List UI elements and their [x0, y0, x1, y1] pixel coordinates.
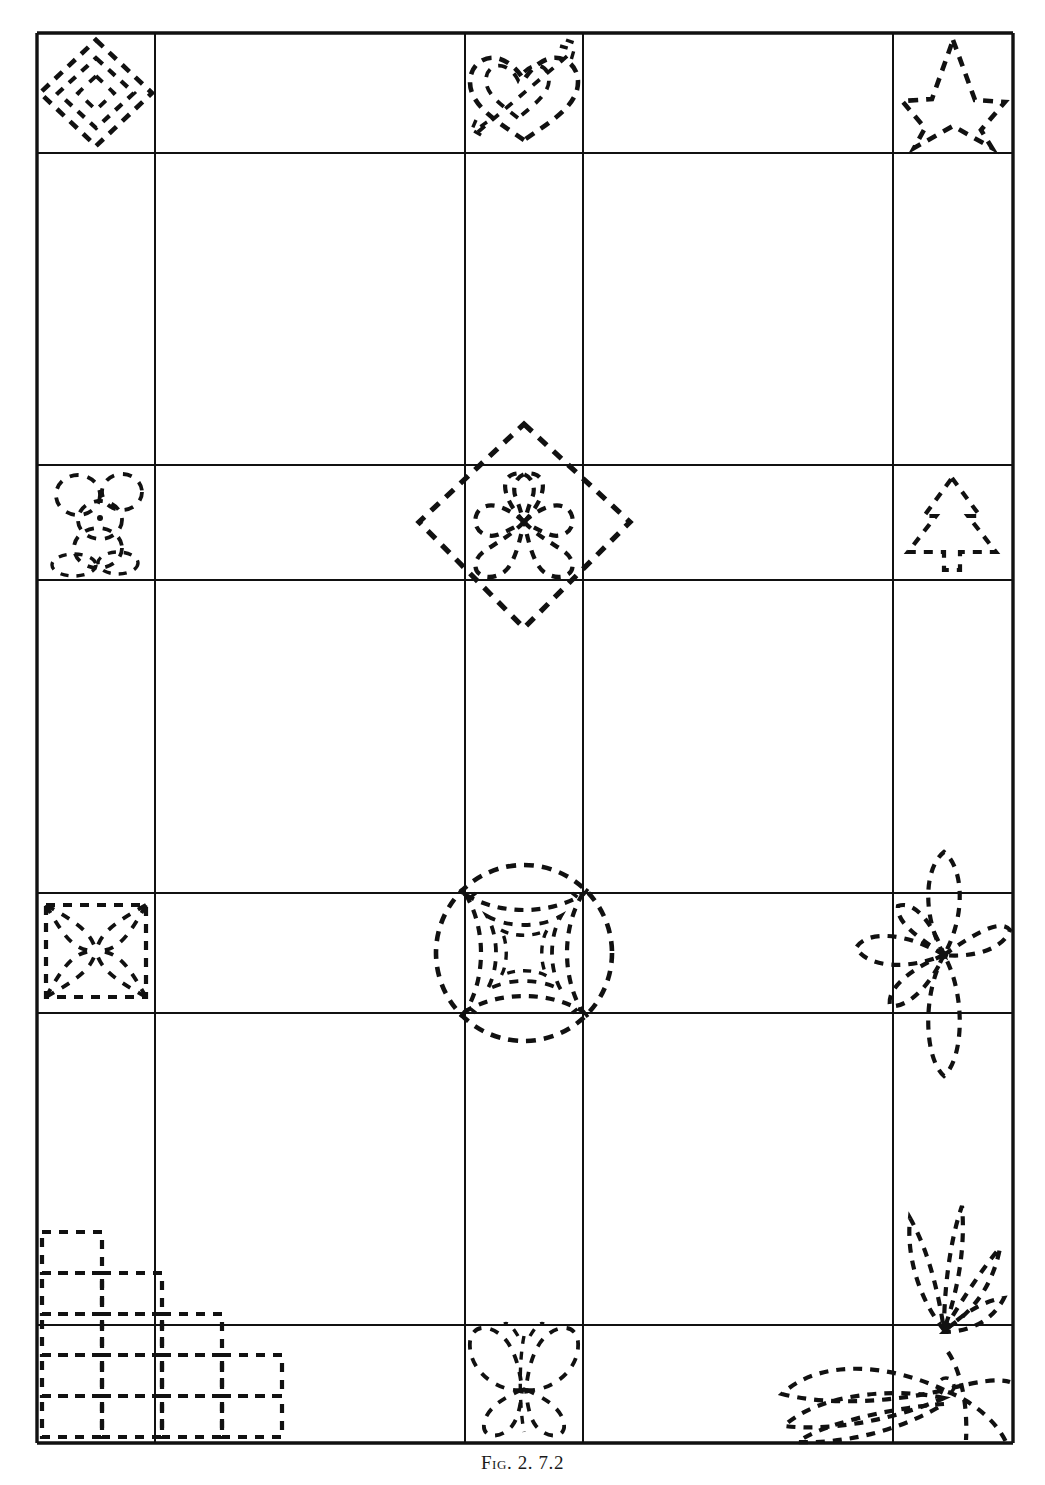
cell-r1c3[interactable] — [465, 33, 583, 153]
cell-r3c3[interactable] — [465, 465, 583, 580]
quilting-stencil-figure: .gl{stroke:#111;fill:none;} .outer{strok… — [0, 0, 1045, 1485]
grid-lines — [37, 33, 1013, 1443]
cell-r1c1[interactable] — [37, 33, 155, 153]
cell-r1c5[interactable] — [893, 33, 1013, 153]
figure-caption: Fig. 2. 7.2 — [0, 1452, 1045, 1474]
cell-r5c3[interactable] — [465, 893, 583, 1013]
cell-r5c1[interactable] — [37, 893, 155, 1013]
cell-r7c5[interactable] — [893, 1325, 1013, 1443]
cell-r3c1[interactable] — [37, 465, 155, 580]
cell-r7c1[interactable] — [37, 1325, 155, 1443]
figure-caption-label: Fig. 2. 7.2 — [481, 1452, 564, 1473]
cell-r7c3[interactable] — [465, 1325, 583, 1443]
cell-r3c5[interactable] — [893, 465, 1013, 580]
figure-canvas: .gl{stroke:#111;fill:none;} .outer{strok… — [0, 0, 1045, 1485]
cell-r5c5[interactable] — [893, 893, 1013, 1013]
